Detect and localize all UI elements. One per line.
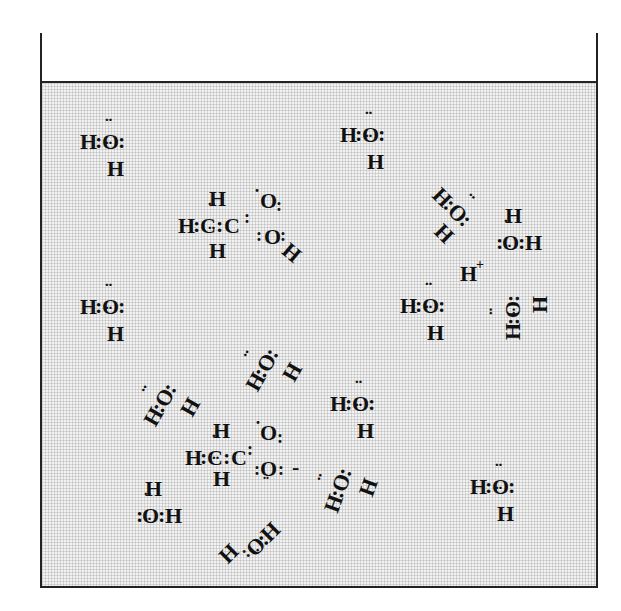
lone-pairs: · bbox=[254, 182, 260, 200]
hydrogen-atom: H bbox=[367, 151, 384, 173]
lone-pair-bottom: ¨ bbox=[144, 514, 151, 536]
lone-pair-top: ¨ bbox=[495, 460, 502, 482]
lone-pairs: ¨ bbox=[263, 475, 269, 493]
lone-pairs: : bbox=[247, 440, 253, 458]
hydrogen-atom: H bbox=[525, 232, 542, 254]
bond-pair: : bbox=[223, 446, 230, 468]
lone-pair-right: : bbox=[438, 294, 445, 316]
lone-pair-top: ¨ bbox=[365, 108, 372, 130]
lone-pairs: : bbox=[244, 208, 250, 226]
lone-pairs: : bbox=[276, 196, 282, 214]
lone-pair-top: ¨ bbox=[486, 308, 508, 315]
bond-pair-bottom: ¨ bbox=[208, 223, 215, 245]
oxygen-atom: O bbox=[260, 422, 277, 444]
bond-pair: : bbox=[216, 214, 223, 236]
negative-charge: - bbox=[292, 456, 299, 478]
lone-pairs: : bbox=[256, 226, 262, 244]
hydrogen-atom: H bbox=[165, 505, 182, 527]
hydrogen-atom: H bbox=[529, 296, 551, 313]
lone-pair-right: : bbox=[508, 475, 515, 497]
lone-pairs: : bbox=[277, 428, 283, 446]
hydrogen-atom: H bbox=[502, 323, 524, 340]
oxygen-atom: O bbox=[260, 190, 277, 212]
hydrogen-atom: H bbox=[497, 503, 514, 525]
lone-pair-right: : bbox=[118, 295, 125, 317]
carbon-atom: C bbox=[224, 215, 240, 237]
hydrogen-atom: H bbox=[357, 420, 374, 442]
hydrogen-atom: H bbox=[460, 263, 477, 285]
lone-pairs: · bbox=[255, 414, 261, 432]
lone-pair-top: ¨ bbox=[105, 115, 112, 137]
bond-pair-top: ¨ bbox=[212, 431, 219, 453]
hydrogen-atom: H bbox=[427, 322, 444, 344]
bond-pair: : bbox=[501, 318, 523, 325]
lone-pairs: : bbox=[278, 460, 284, 478]
hydrogen-atom: H bbox=[107, 323, 124, 345]
lone-pair-top: ¨ bbox=[425, 279, 432, 301]
positive-charge: + bbox=[476, 257, 484, 273]
lone-pairs: : bbox=[280, 226, 286, 244]
bond-pair-bottom: ¨ bbox=[212, 453, 219, 475]
lone-pair-top: ¨ bbox=[105, 280, 112, 302]
carbon-atom: C bbox=[231, 447, 247, 469]
lone-pair-right: : bbox=[118, 130, 125, 152]
lone-pair-right: : bbox=[378, 123, 385, 145]
beaker-right-wall bbox=[596, 33, 598, 83]
bond-pair-top: ¨ bbox=[208, 199, 215, 221]
oxygen-atom: O bbox=[264, 226, 281, 248]
lone-pair-right: : bbox=[368, 392, 375, 414]
lone-pair-top: ¨ bbox=[355, 377, 362, 399]
lone-pairs: : bbox=[254, 460, 260, 478]
lone-pair-right: : bbox=[501, 295, 523, 302]
hydrogen-atom: H bbox=[107, 158, 124, 180]
beaker-left-wall bbox=[40, 33, 42, 83]
lone-pair-bottom: ¨ bbox=[504, 241, 511, 263]
